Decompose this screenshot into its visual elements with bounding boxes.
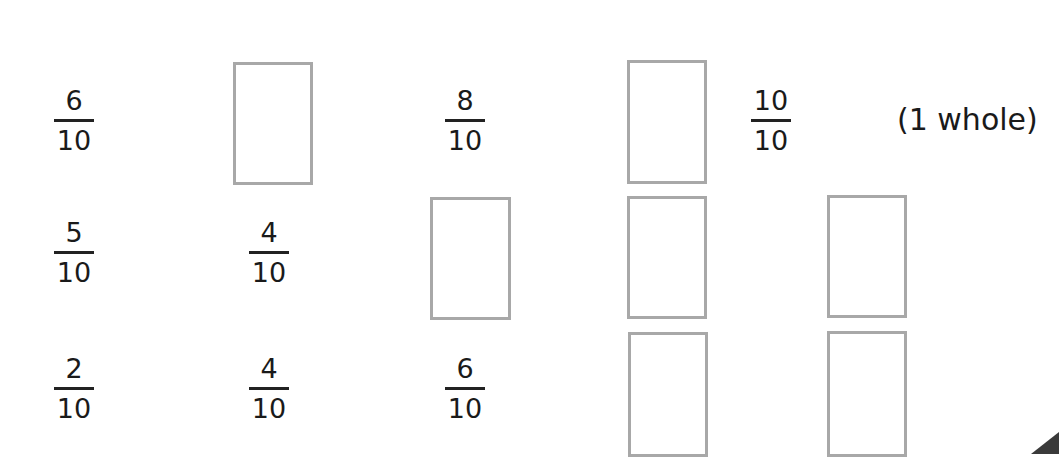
fraction-r1c1: 6 10 (52, 86, 96, 156)
fraction-r1c5: 10 10 (749, 86, 793, 156)
denominator: 10 (57, 126, 91, 156)
fraction-bar (751, 119, 791, 122)
numerator: 8 (456, 86, 473, 116)
denominator: 10 (57, 394, 91, 424)
numerator: 4 (260, 218, 277, 248)
answer-box-r2c3[interactable] (430, 197, 511, 320)
answer-box-r2c4[interactable] (627, 196, 707, 319)
denominator: 10 (754, 126, 788, 156)
answer-box-r1c4[interactable] (627, 60, 707, 184)
answer-box-r3c4[interactable] (628, 332, 708, 457)
fraction-bar (445, 119, 485, 122)
fraction-bar (249, 251, 289, 254)
answer-box-r2c5[interactable] (827, 195, 907, 318)
answer-box-r1c2[interactable] (233, 62, 313, 185)
fraction-r2c2: 4 10 (247, 218, 291, 288)
fraction-r3c2: 4 10 (247, 354, 291, 424)
whole-note: (1 whole) (897, 103, 1038, 137)
numerator: 6 (456, 354, 473, 384)
fraction-bar (249, 387, 289, 390)
fraction-bar (445, 387, 485, 390)
numerator: 10 (754, 86, 788, 116)
page-corner-shadow (1031, 432, 1059, 454)
numerator: 4 (260, 354, 277, 384)
denominator: 10 (252, 258, 286, 288)
numerator: 6 (65, 86, 82, 116)
answer-box-r3c5[interactable] (827, 331, 907, 457)
fraction-bar (54, 119, 94, 122)
fraction-bar (54, 251, 94, 254)
fraction-r3c1: 2 10 (52, 354, 96, 424)
fraction-bar (54, 387, 94, 390)
numerator: 2 (65, 354, 82, 384)
denominator: 10 (448, 394, 482, 424)
numerator: 5 (65, 218, 82, 248)
denominator: 10 (448, 126, 482, 156)
fraction-r1c3: 8 10 (443, 86, 487, 156)
denominator: 10 (252, 394, 286, 424)
denominator: 10 (57, 258, 91, 288)
fraction-r3c3: 6 10 (443, 354, 487, 424)
fraction-r2c1: 5 10 (52, 218, 96, 288)
